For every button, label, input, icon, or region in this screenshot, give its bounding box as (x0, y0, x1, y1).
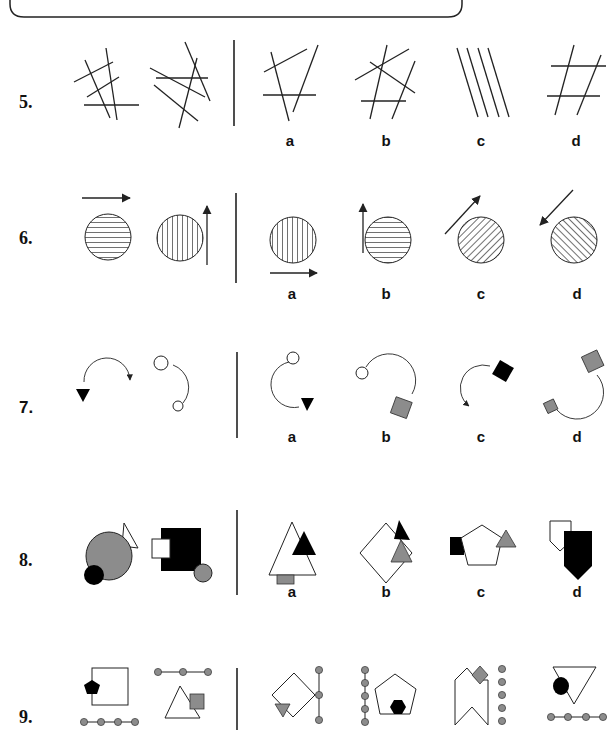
option-8b[interactable]: b (360, 520, 412, 600)
question-number: 7. (19, 398, 33, 417)
option-8d[interactable]: d (550, 521, 592, 600)
puzzle-sheet: 5. a b (0, 0, 615, 730)
option-6a[interactable]: a (270, 217, 317, 302)
option-label: b (381, 285, 390, 302)
option-5d[interactable]: d (547, 45, 606, 149)
option-label: d (571, 132, 580, 149)
option-label: a (286, 132, 295, 149)
option-label: d (572, 428, 581, 445)
sequence-figure-1 (74, 48, 139, 120)
option-label: c (477, 132, 485, 149)
option-label: d (572, 285, 581, 302)
option-label: b (381, 428, 390, 445)
sequence-figure-1 (82, 198, 131, 260)
sequence-figure-2 (150, 42, 210, 128)
option-6d[interactable]: d (540, 190, 597, 302)
sequence-figure-1 (76, 358, 130, 402)
question-number: 9. (19, 707, 33, 727)
option-label: d (572, 583, 581, 600)
option-9a[interactable] (272, 666, 323, 723)
option-label: a (288, 583, 297, 600)
sequence-figure-1 (80, 668, 138, 726)
option-9c[interactable] (455, 665, 506, 725)
question-number: 8. (19, 550, 33, 570)
question-number: 6. (19, 228, 33, 248)
option-8c[interactable]: c (450, 525, 516, 600)
option-5c[interactable]: c (457, 48, 509, 149)
option-8a[interactable]: a (269, 522, 316, 600)
instruction-box (10, 0, 462, 17)
option-label: c (477, 285, 485, 302)
option-label: c (477, 583, 485, 600)
option-5a[interactable]: a (263, 45, 318, 149)
option-7a[interactable]: a (271, 352, 314, 445)
option-6c[interactable]: c (445, 196, 504, 302)
option-9d[interactable] (547, 667, 606, 721)
question-8: 8. a b c (19, 510, 592, 600)
option-7d[interactable]: d (543, 350, 604, 445)
question-7: 7. a b c (19, 350, 604, 445)
sequence-figure-2 (157, 206, 207, 265)
sequence-figure-2 (152, 528, 212, 582)
question-9: 9. (19, 665, 607, 730)
question-5: 5. a b (19, 40, 606, 149)
question-number: 5. (19, 92, 33, 112)
option-7c[interactable]: c (460, 360, 514, 445)
option-label: a (288, 428, 297, 445)
sequence-figure-1 (84, 523, 138, 585)
option-label: c (477, 428, 485, 445)
option-label: a (288, 285, 297, 302)
option-label: b (381, 583, 390, 600)
option-label: b (381, 132, 390, 149)
option-6b[interactable]: b (363, 204, 411, 302)
option-5b[interactable]: b (355, 45, 415, 149)
sequence-figure-2 (154, 356, 189, 411)
option-9b[interactable] (361, 666, 416, 725)
question-6: 6. a b c d (19, 190, 597, 302)
sequence-figure-2 (154, 668, 211, 718)
option-7b[interactable]: b (356, 354, 416, 445)
